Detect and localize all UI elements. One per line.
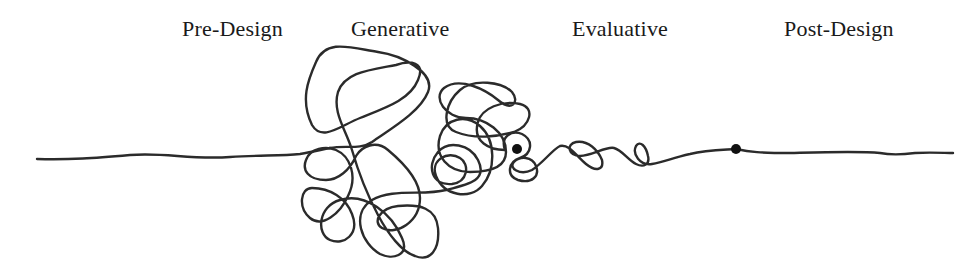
start-of-post-design-marker (731, 144, 741, 154)
pre-design-line (37, 148, 330, 159)
squiggle-line (0, 0, 976, 271)
design-squiggle-diagram: Pre-Design Generative Evaluative Post-De… (0, 0, 976, 271)
post-design-line (736, 149, 953, 155)
generative-tangle (302, 47, 529, 258)
evaluative-loops (504, 133, 736, 181)
start-of-evaluative-marker (512, 144, 522, 154)
